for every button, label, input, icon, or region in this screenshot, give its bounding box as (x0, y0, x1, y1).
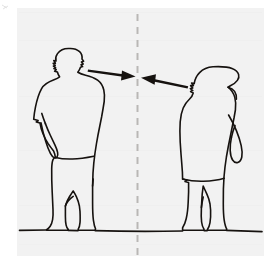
illustration-canvas (0, 0, 264, 277)
drawing-panel-background (17, 8, 264, 256)
illustration-figure: Two figures facing an invisible boundary… (0, 0, 264, 277)
